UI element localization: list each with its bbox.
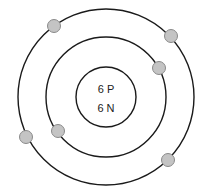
electron: [20, 131, 33, 144]
neutrons-label: 6 N: [97, 102, 114, 114]
electron: [48, 20, 61, 33]
electron: [162, 154, 175, 167]
electron: [52, 125, 65, 138]
atom-diagram: 6 P 6 N: [0, 0, 204, 190]
electron: [165, 30, 178, 43]
nucleus: [76, 67, 136, 127]
inner-shell-orbit: [46, 37, 166, 157]
electron: [153, 62, 166, 75]
protons-label: 6 P: [98, 83, 115, 95]
